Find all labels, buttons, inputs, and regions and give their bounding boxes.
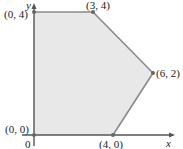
x-axis-label: x	[165, 137, 171, 149]
vertex-4-0	[111, 133, 115, 137]
vertex-6-2	[151, 71, 155, 75]
vertex-0-0	[32, 133, 36, 137]
vertex-0-4	[32, 10, 36, 14]
vertex-label-6-2: (6, 2)	[156, 67, 180, 80]
vertex-label-0-0: (0, 0)	[5, 123, 29, 136]
vertex-label-0-4: (0, 4)	[4, 8, 28, 21]
vertex-label-4-0: (4, 0)	[99, 138, 123, 149]
feasible-region-chart: y x 0 (0, 4) (3, 4) (6, 2) (0, 0) (4, 0)	[0, 0, 183, 149]
origin-label: 0	[25, 138, 31, 149]
feasible-region	[34, 12, 153, 135]
y-axis-arrow-icon	[32, 3, 37, 9]
vertex-label-3-4: (3, 4)	[86, 0, 110, 12]
